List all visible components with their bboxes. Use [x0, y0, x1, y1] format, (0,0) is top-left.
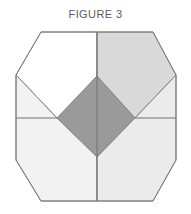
figure-caption: FIGURE 3: [0, 8, 191, 20]
figure-container: FIGURE 3: [0, 0, 191, 214]
figure-diagram: [0, 22, 191, 214]
